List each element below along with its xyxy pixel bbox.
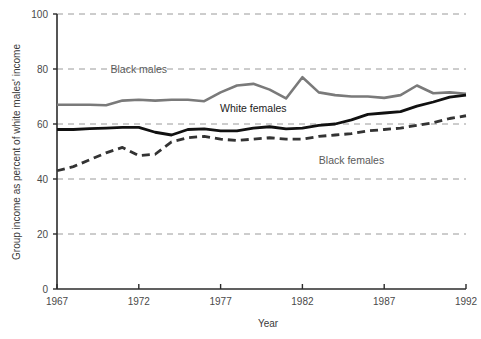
x-tick-label-1987: 1987 <box>373 296 396 307</box>
series-label-black-males: Black males <box>110 63 167 75</box>
chart-container: 020406080100 196719721977198219871992 Bl… <box>0 0 481 339</box>
y-axis-title: Group income as percent of white males' … <box>11 44 22 260</box>
y-tick-label-100: 100 <box>31 9 48 20</box>
income-ratio-line-chart: 020406080100 196719721977198219871992 Bl… <box>0 0 481 339</box>
y-tick-label-20: 20 <box>37 229 49 240</box>
y-tick-label-80: 80 <box>37 64 49 75</box>
x-tick-label-1982: 1982 <box>291 296 314 307</box>
y-tick-label-0: 0 <box>42 284 48 295</box>
x-axis-title: Year <box>258 318 279 329</box>
series-label-white-females: White females <box>220 102 287 114</box>
chart-background <box>0 0 481 339</box>
x-tick-label-1992: 1992 <box>455 296 478 307</box>
y-tick-label-40: 40 <box>37 174 49 185</box>
series-label-black-females: Black females <box>319 154 384 166</box>
y-tick-label-60: 60 <box>37 119 49 130</box>
x-tick-label-1972: 1972 <box>128 296 151 307</box>
x-tick-label-1977: 1977 <box>209 296 232 307</box>
x-tick-label-1967: 1967 <box>46 296 69 307</box>
